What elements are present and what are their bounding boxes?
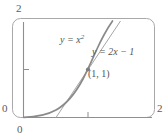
parabola-equation-label: y = x2 [60,34,84,45]
chart-canvas [0,0,167,137]
x-axis-min-label: 0 [17,124,23,135]
parabola-equation-text: y = x [60,34,81,45]
figure-panel: 2 0 0 2 y = x2 y = 2x − 1 (1, 1) [0,0,167,137]
parabola-exponent: 2 [81,33,85,41]
tangent-equation-label: y = 2x − 1 [92,47,134,57]
y-axis-max-label: 2 [16,3,22,14]
x-axis-max-label: 2 [157,103,163,114]
y-axis-min-label: 0 [2,103,8,114]
tangency-point-label: (1, 1) [88,69,110,79]
